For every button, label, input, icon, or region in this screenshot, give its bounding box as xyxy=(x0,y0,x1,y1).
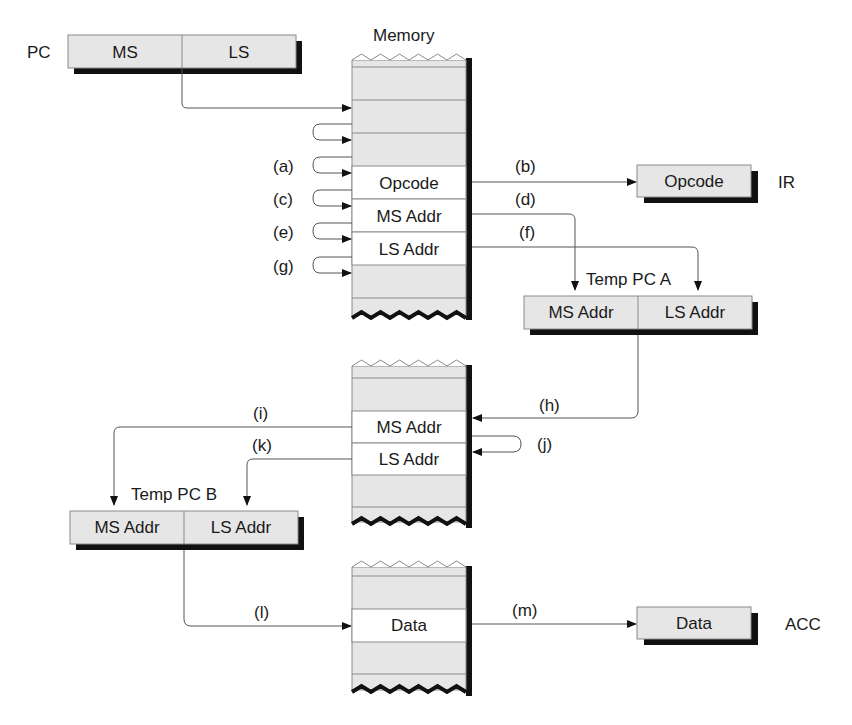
temp-pc-a-ls-field: LS Addr xyxy=(665,303,726,322)
step-i-label: (i) xyxy=(253,404,268,423)
temp-pc-b-ls-field: LS Addr xyxy=(211,518,272,537)
ls-addr-to-temp-pc-b-arrow xyxy=(247,459,352,505)
memory1-ms-addr-cell: MS Addr xyxy=(376,207,442,226)
step-k-label: (k) xyxy=(252,436,272,455)
step-f-label: (f) xyxy=(519,223,535,242)
addressing-diagram: MS LS PC Memory Opcode MS Addr LS Addr (… xyxy=(0,0,852,725)
loop-arrow-g xyxy=(313,257,352,273)
temp-pc-b-register: MS Addr LS Addr xyxy=(70,511,304,550)
pc-ls-field: LS xyxy=(229,43,250,62)
ir-label: IR xyxy=(778,173,795,192)
loop-arrow-a xyxy=(313,157,352,173)
step-g-label: (g) xyxy=(273,257,294,276)
step-l-label: (l) xyxy=(254,603,269,622)
temp-pc-b-ms-field: MS Addr xyxy=(94,518,160,537)
step-h-label: (h) xyxy=(539,396,560,415)
loop-arrow-j xyxy=(472,436,521,452)
memory2-ls-addr-cell: LS Addr xyxy=(379,450,440,469)
acc-register: Data xyxy=(637,607,758,645)
step-c-label: (c) xyxy=(273,190,293,209)
memory-block-1: Opcode MS Addr LS Addr xyxy=(352,54,472,324)
loop-arrow-1 xyxy=(313,124,352,140)
memory1-ls-addr-cell: LS Addr xyxy=(379,240,440,259)
loop-arrow-e xyxy=(313,223,352,239)
step-b-label: (b) xyxy=(515,157,536,176)
memory1-opcode-cell: Opcode xyxy=(379,174,439,193)
pc-label: PC xyxy=(27,43,51,62)
step-m-label: (m) xyxy=(512,601,537,620)
temp-pc-b-label: Temp PC B xyxy=(131,485,217,504)
pc-register: MS LS xyxy=(68,35,302,74)
step-a-label: (a) xyxy=(273,157,294,176)
temp-pc-a-label: Temp PC A xyxy=(586,270,672,289)
pc-ms-field: MS xyxy=(112,43,138,62)
step-j-label: (j) xyxy=(537,435,552,454)
ir-register: Opcode xyxy=(637,165,758,203)
step-e-label: (e) xyxy=(273,223,294,242)
acc-data-field: Data xyxy=(676,614,712,633)
memory-block-2: MS Addr LS Addr xyxy=(352,360,472,528)
temp-pc-a-ms-field: MS Addr xyxy=(548,303,614,322)
acc-label: ACC xyxy=(785,615,821,634)
temp-pc-a-register: MS Addr LS Addr xyxy=(524,296,758,335)
memory-title: Memory xyxy=(373,26,435,45)
memory2-ms-addr-cell: MS Addr xyxy=(376,418,442,437)
memory3-data-cell: Data xyxy=(391,616,427,635)
loop-arrow-c xyxy=(313,190,352,206)
ir-opcode-field: Opcode xyxy=(664,172,724,191)
step-d-label: (d) xyxy=(515,190,536,209)
memory-block-3: Data xyxy=(352,561,472,696)
